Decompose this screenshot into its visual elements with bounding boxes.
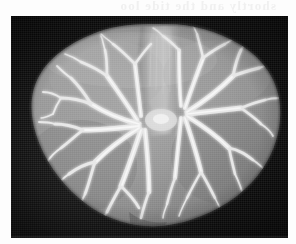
bleed-through-text-strip: shortly and the tide loo [0, 0, 296, 16]
hilar-confluence [145, 109, 177, 131]
page-bottom-margin [0, 238, 296, 244]
scanned-page: shortly and the tide loo [0, 0, 296, 244]
bleed-through-text: shortly and the tide loo [26, 0, 276, 14]
specimen-photograph [11, 16, 288, 238]
specimen-illustration [11, 16, 288, 238]
